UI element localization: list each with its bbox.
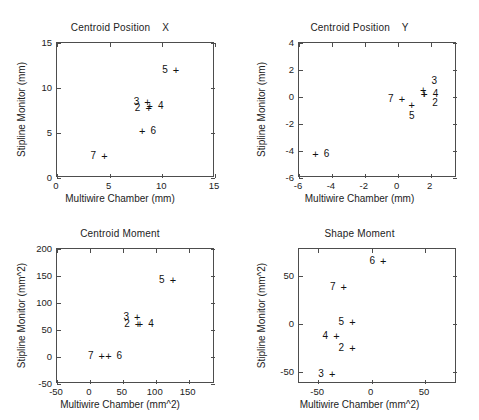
y-axis-label: Stipline Monitor (mm) (256, 42, 267, 177)
panel-centroid-position-x: Centroid Position X+2+3+4+5+6+7051015051… (0, 0, 240, 210)
x-axis-tick (332, 43, 333, 47)
x-axis-tick (162, 174, 163, 178)
data-point-label: 7 (88, 351, 94, 361)
x-axis-tick (156, 249, 157, 253)
y-axis-label: Stipline Monitor (mm) (16, 42, 27, 177)
x-axis-tick (110, 174, 111, 178)
data-point-marker: + (380, 255, 386, 266)
y-axis-tick (299, 276, 303, 277)
x-axis-tick-label: 10 (156, 180, 167, 191)
y-axis-tick (57, 303, 61, 304)
x-axis-tick-label: 0 (368, 386, 373, 397)
y-axis-tick (453, 43, 457, 44)
x-axis-label: Multiwire Chamber (mm^2) (0, 399, 240, 410)
chart-title: Centroid Position Y (240, 22, 479, 33)
data-point-label: 4 (158, 101, 164, 111)
y-axis-tick (299, 178, 303, 179)
x-axis-label: Multiwire Chamber (mm^2) (240, 399, 479, 410)
x-axis-tick (110, 43, 111, 47)
y-axis-tick (57, 276, 61, 277)
y-axis-tick (453, 70, 457, 71)
x-axis-tick-label: 2 (427, 180, 432, 191)
plot-area: +2+3+4+5+6+7 (298, 248, 456, 383)
y-axis-tick (211, 178, 215, 179)
y-axis-tick-label: -4 (240, 145, 294, 156)
data-point-label: 3 (134, 97, 140, 107)
y-axis-tick (299, 43, 303, 44)
plot-area: +2+3+4+5+6+7 (56, 248, 214, 383)
x-axis-tick (425, 380, 426, 384)
x-axis-tick (156, 380, 157, 384)
data-point-label: 7 (330, 282, 336, 292)
panel-centroid-position-y: Centroid Position Y+2+3+4+5+6+7-6-4-202-… (240, 0, 479, 210)
x-axis-tick (372, 380, 373, 384)
data-point-marker: + (105, 350, 111, 361)
data-point-label: 2 (432, 98, 438, 108)
x-axis-tick (425, 249, 426, 253)
y-axis-tick (211, 133, 215, 134)
y-axis-tick-label: 2 (240, 64, 294, 75)
x-axis-tick-label: -4 (327, 180, 335, 191)
y-axis-tick (299, 324, 303, 325)
y-axis-tick-label: -50 (240, 366, 294, 377)
data-point-label: 3 (124, 312, 130, 322)
x-axis-tick (365, 43, 366, 47)
x-axis-label: Multiwire Chamber (mm) (0, 193, 240, 204)
y-axis-tick (57, 43, 61, 44)
y-axis-tick-label: 0 (240, 318, 294, 329)
y-axis-tick (453, 124, 457, 125)
data-point-marker: + (333, 330, 339, 341)
x-axis-tick-label: 50 (419, 386, 430, 397)
y-axis-tick (453, 324, 457, 325)
y-axis-tick (453, 97, 457, 98)
data-point-marker: + (349, 343, 355, 354)
data-point-label: 7 (91, 151, 97, 161)
data-point-marker: + (312, 148, 318, 159)
panel-shape-moment: Shape Moment+2+3+4+5+6+7-50050-50050Mult… (240, 205, 479, 420)
x-axis-tick (215, 174, 216, 178)
data-point-label: 4 (323, 331, 329, 341)
y-axis-tick (211, 303, 215, 304)
x-axis-tick (90, 380, 91, 384)
x-axis-tick-label: -2 (360, 180, 368, 191)
data-point-marker: + (139, 126, 145, 137)
y-axis-tick-label: 4 (240, 37, 294, 48)
y-axis-tick (211, 357, 215, 358)
data-point-marker: + (329, 369, 335, 380)
x-axis-tick (372, 249, 373, 253)
y-axis-tick (299, 124, 303, 125)
x-axis-tick (189, 249, 190, 253)
y-axis-tick (57, 384, 61, 385)
plot-area: +2+3+4+5+6+7 (298, 42, 456, 177)
y-axis-tick (211, 249, 215, 250)
y-axis-tick (57, 330, 61, 331)
x-axis-tick (318, 249, 319, 253)
y-axis-tick (211, 43, 215, 44)
data-point-label: 5 (339, 317, 345, 327)
x-axis-tick (123, 249, 124, 253)
x-axis-tick-label: -50 (310, 386, 324, 397)
x-axis-tick-label: 0 (53, 180, 58, 191)
y-axis-tick (57, 357, 61, 358)
x-axis-tick-label: 5 (106, 180, 111, 191)
data-point-marker: + (170, 275, 176, 286)
data-point-label: 5 (409, 111, 415, 121)
data-point-label: 6 (324, 149, 330, 159)
data-point-label: 7 (388, 94, 394, 104)
figure-canvas: Centroid Position X+2+3+4+5+6+7051015051… (0, 0, 479, 420)
data-point-label: 3 (318, 369, 324, 379)
x-axis-tick (398, 43, 399, 47)
x-axis-tick (215, 43, 216, 47)
x-axis-tick (318, 380, 319, 384)
chart-title: Shape Moment (240, 228, 479, 239)
y-axis-tick (211, 276, 215, 277)
data-point-marker: + (146, 101, 152, 112)
y-axis-tick-label: -6 (240, 172, 294, 183)
x-axis-tick (365, 174, 366, 178)
x-axis-tick-label: 100 (147, 386, 163, 397)
data-point-marker: + (99, 350, 105, 361)
x-axis-tick (123, 380, 124, 384)
y-axis-tick (57, 88, 61, 89)
data-point-label: 6 (117, 351, 123, 361)
data-point-label: 6 (370, 256, 376, 266)
